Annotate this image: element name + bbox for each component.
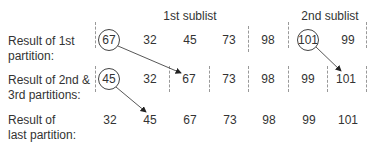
pivot-move-arrows: [0, 0, 375, 144]
arrow-icon: [316, 47, 341, 71]
arrow-icon: [116, 87, 146, 112]
arrow-icon: [118, 46, 181, 73]
